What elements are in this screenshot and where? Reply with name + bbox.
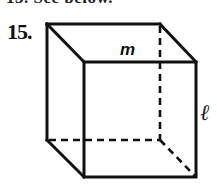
top-left-depth-edge	[47, 24, 84, 62]
top-right-depth-edge	[160, 24, 196, 62]
bottom-left-depth-edge	[47, 140, 84, 177]
cube-figure	[0, 0, 217, 185]
edge-label-m: m	[120, 40, 135, 60]
edge-label-l: ℓ	[200, 100, 209, 126]
hidden-bottom-right-depth-edge	[160, 140, 196, 177]
